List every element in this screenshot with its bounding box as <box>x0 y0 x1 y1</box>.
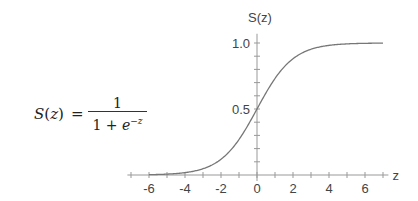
x-tick-label: -4 <box>179 181 191 196</box>
x-axis-label: z <box>392 168 399 183</box>
sigmoid-curve <box>149 43 383 175</box>
sigmoid-chart: -6-4-202460.51.0zS(z) <box>0 0 418 201</box>
y-tick-label: 1.0 <box>232 36 250 51</box>
x-tick-label: 4 <box>325 181 332 196</box>
x-tick-label: 0 <box>253 181 260 196</box>
y-axis-label: S(z) <box>248 10 272 25</box>
x-tick-label: 6 <box>361 181 368 196</box>
x-tick-label: -2 <box>215 181 227 196</box>
x-tick-label: 2 <box>289 181 296 196</box>
y-tick-label: 0.5 <box>232 102 250 117</box>
x-tick-label: -6 <box>143 181 155 196</box>
